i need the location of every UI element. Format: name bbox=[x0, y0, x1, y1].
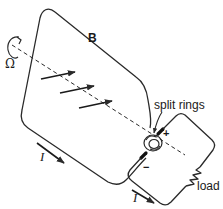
generator-diagram: B Ω I I split rings load + − bbox=[0, 0, 223, 209]
positive-terminal-label: + bbox=[163, 128, 169, 139]
split-rings-label: split rings bbox=[154, 99, 205, 111]
load-current-label: I bbox=[133, 191, 137, 204]
magnetic-field-arrows bbox=[41, 72, 112, 108]
negative-terminal-label: − bbox=[143, 162, 149, 173]
coil-current-label: I bbox=[40, 150, 44, 163]
split-rings bbox=[144, 135, 162, 151]
rotation-arrow-icon bbox=[8, 37, 21, 58]
angular-velocity-label: Ω bbox=[5, 58, 15, 70]
load-label: load bbox=[197, 180, 220, 192]
magnetic-field-label: B bbox=[88, 32, 97, 44]
